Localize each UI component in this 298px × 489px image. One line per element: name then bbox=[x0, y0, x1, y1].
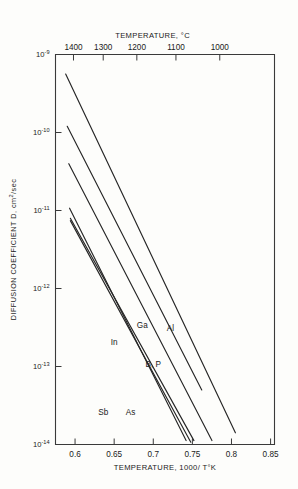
top-axis-tick-label: 1300 bbox=[94, 43, 113, 52]
bottom-axis-tick-label: 0.6 bbox=[69, 450, 81, 459]
y-axis-title: DIFFUSION COEFFICIENT D, cm2/sec bbox=[8, 179, 18, 321]
series-label-ga: Ga bbox=[137, 321, 148, 330]
top-axis-tick-label: 1100 bbox=[167, 43, 185, 52]
bottom-axis-title: TEMPERATURE, 1000/ T°K bbox=[114, 463, 216, 472]
series-label-as: As bbox=[126, 408, 136, 417]
bottom-axis-tick-label: 0.85 bbox=[263, 450, 279, 459]
top-axis-tick-label: 1200 bbox=[128, 43, 147, 52]
y-axis-tick-label: 10-10 bbox=[33, 127, 50, 137]
y-axis-tick-label: 10-14 bbox=[33, 439, 50, 449]
bottom-axis-tick-label: 0.75 bbox=[184, 450, 200, 459]
series-line-bp bbox=[69, 164, 212, 441]
series-line-al bbox=[66, 74, 236, 433]
bottom-axis-tick-label: 0.8 bbox=[226, 450, 238, 459]
top-axis-title: TEMPERATURE, °C bbox=[115, 31, 190, 40]
y-axis-tick-label: 10-11 bbox=[33, 205, 49, 215]
bottom-axis-tick-label: 0.7 bbox=[148, 450, 160, 459]
series-line-ga bbox=[67, 126, 202, 390]
series-label-sb: Sb bbox=[98, 408, 108, 417]
y-axis-tick-label: 10-13 bbox=[33, 361, 50, 371]
top-axis-tick-label: 1000 bbox=[211, 43, 230, 52]
series-label-in: In bbox=[111, 338, 118, 347]
bottom-axis-tick-label: 0.65 bbox=[106, 450, 122, 459]
y-axis-tick-label: 10-9 bbox=[36, 49, 49, 59]
y-axis-tick-label: 10-12 bbox=[33, 283, 50, 293]
diffusion-coefficient-chart: 14001300120011001000TEMPERATURE, °C0.60.… bbox=[0, 0, 298, 489]
chart-canvas: 14001300120011001000TEMPERATURE, °C0.60.… bbox=[0, 0, 298, 489]
top-axis-tick-label: 1400 bbox=[64, 43, 83, 52]
